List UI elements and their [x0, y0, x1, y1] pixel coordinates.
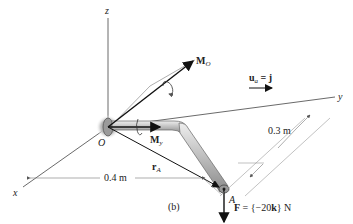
moment-o-label: MO — [196, 56, 211, 68]
point-o-label: O — [98, 138, 105, 148]
pipe-segment-2 — [179, 123, 228, 192]
diagram-canvas — [0, 0, 353, 224]
x-axis-label: x — [13, 188, 17, 198]
position-vector-label: rA — [152, 162, 161, 174]
unit-vector-label: ua = j — [249, 73, 272, 85]
figure-caption: (b) — [168, 202, 180, 212]
dimension-x-label: 0.4 m — [104, 173, 127, 183]
moment-y-label: My — [150, 135, 163, 147]
dimension-y-label: 0.3 m — [268, 126, 291, 136]
y-axis-label: y — [338, 92, 342, 102]
z-axis-label: z — [105, 6, 109, 16]
force-label: F = {−20k} N — [234, 203, 291, 213]
